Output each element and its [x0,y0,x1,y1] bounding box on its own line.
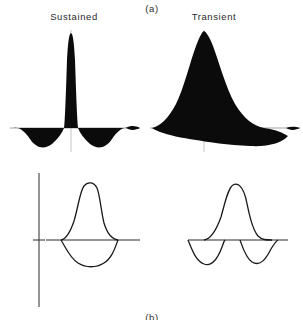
transient-right-tail [286,127,300,130]
group-1-center-curve [61,183,118,240]
panel-b: (b) Group I Group II Center mechanism Su… [0,155,303,320]
group-2-surround-right-lobe [240,240,278,264]
sustained-right-tail [126,126,140,130]
figure-container: (a) Sustained Transient (b) Group [0,0,303,320]
group-2-surround-left-lobe [188,240,225,265]
group-2-center-curve [204,184,272,240]
group-1-surround-curve [61,240,118,267]
transient-title: Transient [192,11,237,23]
transient-profile-fill [152,31,288,146]
panel-b-label: (b) [145,312,158,320]
panel-a-plot [0,0,303,155]
panel-a: (a) Sustained Transient [0,0,303,155]
sustained-profile-fill [14,33,139,147]
sustained-title: Sustained [50,11,98,23]
panel-b-plot [0,155,303,320]
panel-a-label: (a) [145,3,158,15]
